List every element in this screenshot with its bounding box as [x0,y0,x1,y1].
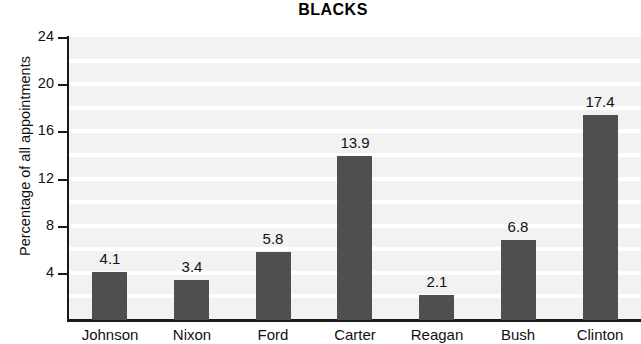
bar [174,280,209,320]
y-tick-label: 4 [28,265,54,280]
x-axis-label-carter: Carter [310,327,400,342]
bar-value-label: 3.4 [162,259,222,274]
y-tick-20 [58,84,67,86]
gridline [69,129,641,133]
y-axis-title: Percentage of all appointments [17,6,33,306]
bar [419,295,454,320]
x-axis-label-clinton: Clinton [555,327,641,342]
bar-value-label: 6.8 [488,219,548,234]
bar-chart: BLACKS Percentage of all appointments 48… [0,0,641,344]
y-tick-label: 20 [28,76,54,91]
y-axis-line [67,36,69,321]
x-axis-label-nixon: Nixon [147,327,237,342]
x-axis-label-reagan: Reagan [392,327,482,342]
x-axis-label-bush: Bush [473,327,563,342]
y-tick-16 [58,131,67,133]
y-tick-label: 12 [28,171,54,186]
bar-value-label: 5.8 [243,231,303,246]
bar [337,156,372,320]
x-axis-label-ford: Ford [228,327,318,342]
y-tick-8 [58,226,67,228]
gridline [69,82,641,86]
bar-value-label: 2.1 [407,274,467,289]
y-tick-label: 24 [28,29,54,44]
chart-title: BLACKS [68,1,598,19]
gridline [69,106,641,110]
bar [256,252,291,320]
y-tick-label: 16 [28,123,54,138]
y-tick-12 [58,179,67,181]
bar [583,115,618,320]
y-tick-4 [58,273,67,275]
y-tick-24 [58,37,67,39]
bar [501,240,536,320]
bar-value-label: 17.4 [570,94,630,109]
bar [92,272,127,320]
y-tick-label: 8 [28,218,54,233]
bar-value-label: 4.1 [80,251,140,266]
x-axis-label-johnson: Johnson [65,327,155,342]
gridline [69,59,641,63]
bar-value-label: 13.9 [325,135,385,150]
